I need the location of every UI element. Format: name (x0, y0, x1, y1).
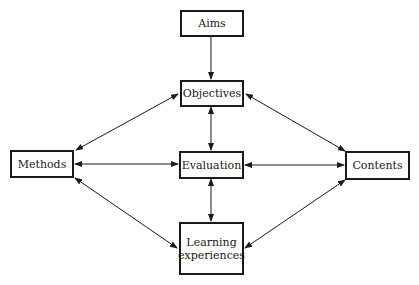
edge-objectives-methods (76, 94, 178, 150)
node-aims-label: Aims (198, 17, 226, 30)
edge-methods-learning (75, 178, 177, 248)
node-evaluation: Evaluation (179, 151, 244, 179)
node-learning-experiences-label: Learning experiences (178, 236, 245, 262)
node-methods: Methods (10, 150, 74, 178)
node-objectives-label: Objectives (183, 87, 241, 100)
node-aims: Aims (180, 10, 244, 37)
edge-contents-learning (245, 180, 345, 248)
node-evaluation-label: Evaluation (182, 159, 242, 172)
node-objectives: Objectives (180, 80, 244, 107)
node-methods-label: Methods (18, 158, 67, 171)
node-contents: Contents (345, 151, 410, 180)
node-contents-label: Contents (352, 159, 402, 172)
node-learning-experiences: Learning experiences (179, 222, 244, 275)
edge-objectives-contents (246, 94, 345, 151)
